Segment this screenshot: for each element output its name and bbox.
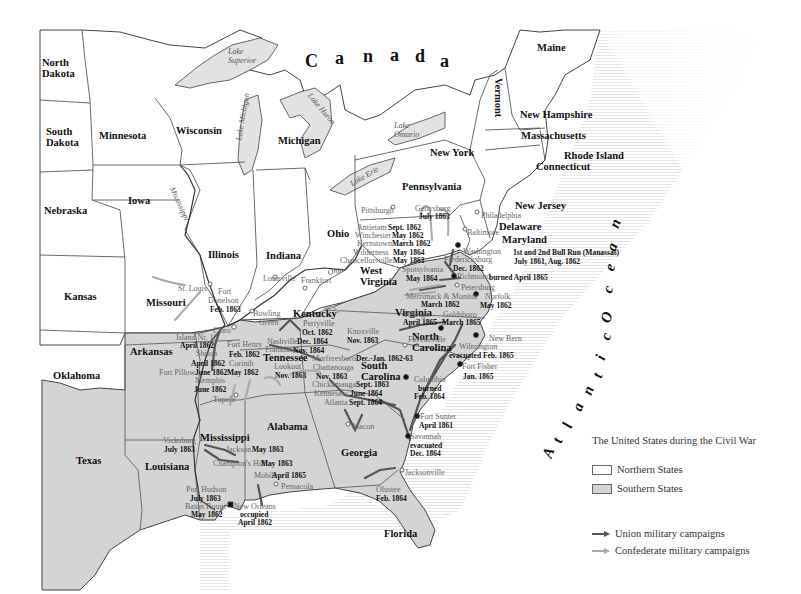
southern-states-swatch xyxy=(592,484,612,494)
state-label-west-virginia: Virginia xyxy=(360,277,397,288)
place-label: Donelson xyxy=(208,297,239,305)
date-label: March 1865 xyxy=(442,319,480,327)
place-label: Kernstown xyxy=(357,240,392,248)
state-label-delaware: Delaware xyxy=(499,222,541,233)
state-label-north-carolina: Carolina xyxy=(412,343,451,354)
place-label: Fort Fisher xyxy=(462,363,497,371)
canada-letter: C xyxy=(305,52,318,70)
place-label: Wilmington xyxy=(459,343,497,351)
place-label: Petersburg xyxy=(461,284,495,292)
state-label-alabama: Alabama xyxy=(267,422,308,433)
state-label-michigan: Michigan xyxy=(278,136,321,147)
date-label: July 1863 xyxy=(419,213,450,221)
date-label: 1st and 2nd Bull Run (Manassas) xyxy=(513,249,619,257)
place-label: Memphis xyxy=(195,377,225,385)
date-label: May 1863 xyxy=(261,460,292,468)
place-label: Pensacola xyxy=(281,483,313,491)
date-label: April 1865 xyxy=(272,472,306,480)
place-label: Fort Henry xyxy=(227,341,262,349)
date-label: March 1862 xyxy=(421,301,459,309)
date-label: March 1862 xyxy=(392,240,430,248)
state-label-illinois: Illinois xyxy=(208,250,239,261)
place-label: Knoxville xyxy=(347,328,379,336)
date-label: Sept. 1863 xyxy=(356,381,389,389)
place-label: Fort Pillow xyxy=(159,369,195,377)
date-label: Feb. 1864 xyxy=(414,393,445,401)
place-label: Vicksburg xyxy=(163,437,196,445)
place-label: Olustee xyxy=(376,486,400,494)
state-label-massachusetts: Massachusetts xyxy=(521,131,586,142)
state-label-rhode-island: Rhode Island xyxy=(564,151,624,162)
legend-label: Southern States xyxy=(617,483,683,494)
date-label: April 1861 xyxy=(419,422,453,430)
state-label-texas: Texas xyxy=(76,456,101,467)
canada-letter: a xyxy=(335,49,344,67)
legend-item-southern-states: Southern States xyxy=(592,483,767,494)
date-label: Jan. 1865 xyxy=(463,373,493,381)
place-label: Baltimore xyxy=(467,229,499,237)
legend-label: Union military campaigns xyxy=(615,528,725,539)
place-label: Corinth xyxy=(229,360,253,368)
canada-letter: d xyxy=(415,47,425,65)
place-label: Philadelphia xyxy=(481,212,521,220)
place-label: Perryville xyxy=(303,320,335,328)
date-label: June 1862 xyxy=(194,386,226,394)
date-label: July 1863 xyxy=(164,446,195,454)
state-label-arkansas: Arkansas xyxy=(130,347,173,358)
state-label-new-hampshire: New Hampshire xyxy=(520,110,592,121)
water-label-lake-superior: Lake xyxy=(228,48,244,56)
place-label: Pittsburgh xyxy=(361,207,394,215)
place-label: Chattanooga xyxy=(313,364,353,372)
confederate-arrow-icon xyxy=(592,548,610,554)
state-label-georgia: Georgia xyxy=(341,448,377,459)
place-label: Franklin xyxy=(265,346,292,354)
place-label: Atlanta xyxy=(324,399,348,407)
state-label-south-dakota: South xyxy=(46,127,72,138)
place-label: Norfolk xyxy=(485,293,510,301)
place-label: Chancellorsville xyxy=(340,257,392,265)
date-label: Feb. 1862 xyxy=(229,351,260,359)
state-label-florida: Florida xyxy=(384,529,417,540)
date-label: June 1864 xyxy=(350,390,382,398)
date-label: Nov. 1863 xyxy=(347,337,378,345)
union-arrow-icon: .u::before{background:#555} xyxy=(592,531,610,537)
place-label: Fredericksburg xyxy=(444,256,492,264)
place-label: St. Louis xyxy=(178,285,207,293)
legend-item-northern-states: Northern States xyxy=(592,464,767,475)
date-label: Sept. 1864 xyxy=(349,399,382,407)
state-label-west-virginia: West xyxy=(360,266,382,277)
state-label-connecticut: Connecticut xyxy=(536,162,590,173)
place-label: Chickamauga xyxy=(312,381,356,389)
legend-label: Confederate military campaigns xyxy=(615,545,750,556)
water-label-lake-superior: Superior xyxy=(228,57,256,65)
date-label: Feb. 1863 xyxy=(210,306,241,314)
state-label-missouri: Missouri xyxy=(146,298,186,309)
place-label: Spotsylvania xyxy=(402,266,443,274)
date-label: burned April 1865 xyxy=(489,274,548,282)
legend-item-union-campaigns: .u::before{background:#555} Union milita… xyxy=(592,528,767,539)
place-label: Shiloh xyxy=(196,350,217,358)
state-label-maine: Maine xyxy=(537,43,566,54)
date-label: Oct. 1862 xyxy=(302,329,332,337)
state-label-new-york: New York xyxy=(430,148,474,159)
state-label-nebraska: Nebraska xyxy=(44,206,87,217)
canada-letter: a xyxy=(390,46,399,64)
canada-letter: n xyxy=(363,47,373,65)
state-label-wisconsin: Wisconsin xyxy=(176,126,222,137)
state-label-iowa: Iowa xyxy=(128,196,150,207)
place-label: Louisville xyxy=(263,275,295,283)
date-label: Dec. 1864 xyxy=(297,338,328,346)
date-label: May 1862 xyxy=(227,369,258,377)
place-label: Port Hudson xyxy=(186,486,226,494)
state-label-kansas: Kansas xyxy=(64,292,97,303)
place-label: Savannah xyxy=(410,433,441,441)
place-label: Columbia xyxy=(414,376,446,384)
date-label: April 1862 xyxy=(238,519,272,527)
place-label: Champion's Hill xyxy=(213,460,265,468)
state-label-pennsylvania: Pennsylvania xyxy=(402,182,462,193)
legend-title: The United States during the Civil War xyxy=(592,434,767,448)
place-label: Tupelo xyxy=(213,396,235,404)
date-label: May 1862 xyxy=(191,511,222,519)
state-label-new-jersey: New Jersey xyxy=(515,201,566,212)
canada-letter: a xyxy=(440,52,449,70)
